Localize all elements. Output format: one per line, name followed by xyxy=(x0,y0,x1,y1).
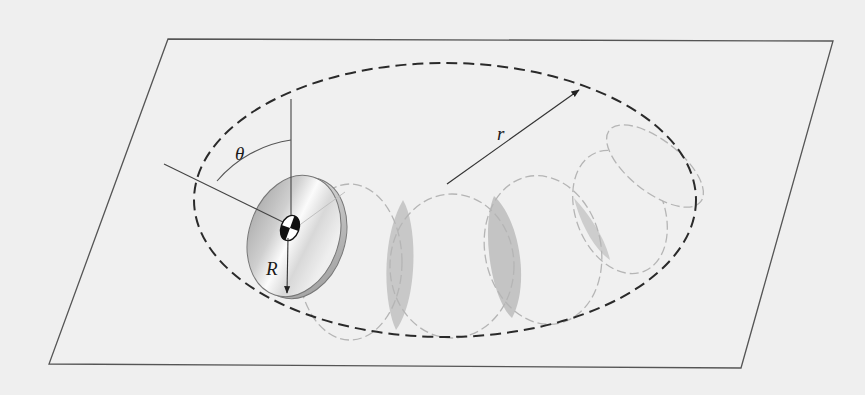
disk-radius-label: R xyxy=(265,258,278,279)
theta-label: θ xyxy=(235,143,244,164)
path-radius-label: r xyxy=(497,123,505,144)
ground-plane xyxy=(49,39,833,368)
rolling-disk-diagram: r θ R xyxy=(0,0,865,395)
